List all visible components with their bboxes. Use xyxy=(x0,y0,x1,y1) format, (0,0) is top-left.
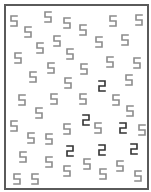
digit-5-glyph xyxy=(134,170,142,182)
distractor-digit-5 xyxy=(18,94,26,106)
digit-5-glyph xyxy=(50,93,58,105)
distractor-digit-5 xyxy=(116,160,124,172)
distractor-digit-5 xyxy=(63,17,71,29)
target-digit-2 xyxy=(130,143,138,155)
digit-5-glyph xyxy=(44,11,52,23)
distractor-digit-5 xyxy=(27,132,35,144)
digit-2-glyph xyxy=(130,143,138,155)
target-digit-2 xyxy=(82,114,90,126)
target-digit-2 xyxy=(66,145,74,157)
distractor-digit-5 xyxy=(50,93,58,105)
distractor-digit-5 xyxy=(94,122,102,134)
distractor-digit-5 xyxy=(45,133,53,145)
distractor-digit-5 xyxy=(79,24,87,36)
distractor-digit-5 xyxy=(45,156,53,168)
digit-5-glyph xyxy=(63,123,71,135)
distractor-digit-5 xyxy=(29,71,37,83)
digit-5-glyph xyxy=(53,35,61,47)
digit-5-glyph xyxy=(94,122,102,134)
digit-5-glyph xyxy=(112,94,120,106)
digit-2-glyph xyxy=(98,144,106,156)
digit-5-glyph xyxy=(138,124,146,136)
digit-5-glyph xyxy=(79,24,87,36)
digit-2-glyph xyxy=(98,80,106,92)
distractor-digit-5 xyxy=(35,107,43,119)
distractor-digit-5 xyxy=(83,158,91,170)
distractor-digit-5 xyxy=(63,165,71,177)
digit-5-glyph xyxy=(80,63,88,75)
digit-5-glyph xyxy=(63,165,71,177)
distractor-digit-5 xyxy=(19,151,27,163)
distractor-digit-5 xyxy=(126,105,134,117)
digit-5-glyph xyxy=(31,173,39,185)
digit-5-glyph xyxy=(10,15,18,27)
digit-5-glyph xyxy=(95,36,103,48)
digit-2-glyph xyxy=(66,145,74,157)
digit-5-glyph xyxy=(66,48,74,60)
digit-5-glyph xyxy=(106,56,114,68)
digit-5-glyph xyxy=(64,77,72,89)
distractor-digit-5 xyxy=(10,120,18,132)
distractor-digit-5 xyxy=(24,26,32,38)
digit-5-glyph xyxy=(19,151,27,163)
distractor-digit-5 xyxy=(44,11,52,23)
distractor-digit-5 xyxy=(99,168,107,180)
target-digit-2 xyxy=(119,122,127,134)
digit-5-glyph xyxy=(126,105,134,117)
distractor-digit-5 xyxy=(135,14,143,26)
distractor-digit-5 xyxy=(79,93,87,105)
distractor-digit-5 xyxy=(36,42,44,54)
distractor-digit-5 xyxy=(106,56,114,68)
distractor-digit-5 xyxy=(53,35,61,47)
distractor-digit-5 xyxy=(121,34,129,46)
target-digit-2 xyxy=(98,144,106,156)
distractor-digit-5 xyxy=(125,74,133,86)
distractor-digit-5 xyxy=(47,62,55,74)
digit-5-glyph xyxy=(24,26,32,38)
digit-5-glyph xyxy=(116,160,124,172)
digit-5-glyph xyxy=(79,93,87,105)
digit-5-glyph xyxy=(10,120,18,132)
digit-5-glyph xyxy=(83,158,91,170)
distractor-digit-5 xyxy=(133,57,141,69)
digit-5-glyph xyxy=(109,15,117,27)
digit-5-glyph xyxy=(99,168,107,180)
digit-5-glyph xyxy=(35,107,43,119)
distractor-digit-5 xyxy=(31,173,39,185)
digit-5-glyph xyxy=(47,62,55,74)
distractor-digit-5 xyxy=(13,173,21,185)
distractor-digit-5 xyxy=(95,36,103,48)
digit-2-glyph xyxy=(82,114,90,126)
distractor-digit-5 xyxy=(134,170,142,182)
digit-5-glyph xyxy=(36,42,44,54)
digit-5-glyph xyxy=(125,74,133,86)
digit-5-glyph xyxy=(13,173,21,185)
digit-5-glyph xyxy=(133,57,141,69)
digit-5-glyph xyxy=(27,132,35,144)
distractor-digit-5 xyxy=(138,124,146,136)
distractor-digit-5 xyxy=(66,48,74,60)
digit-5-glyph xyxy=(14,52,22,64)
target-digit-2 xyxy=(98,80,106,92)
digit-5-glyph xyxy=(29,71,37,83)
distractor-digit-5 xyxy=(64,77,72,89)
digit-5-glyph xyxy=(45,156,53,168)
digit-5-glyph xyxy=(45,133,53,145)
distractor-digit-5 xyxy=(109,15,117,27)
distractor-digit-5 xyxy=(80,63,88,75)
distractor-digit-5 xyxy=(112,94,120,106)
distractor-digit-5 xyxy=(63,123,71,135)
digit-2-glyph xyxy=(119,122,127,134)
digit-5-glyph xyxy=(63,17,71,29)
digit-5-glyph xyxy=(135,14,143,26)
digit-5-glyph xyxy=(18,94,26,106)
distractor-digit-5 xyxy=(10,15,18,27)
distractor-digit-5 xyxy=(14,52,22,64)
digit-5-glyph xyxy=(121,34,129,46)
